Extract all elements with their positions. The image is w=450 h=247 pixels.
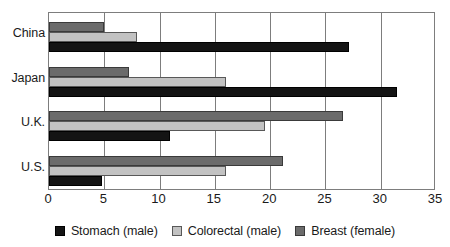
legend-label-colorectal-male: Colorectal (male) — [188, 224, 281, 238]
x-tick-label-5: 5 — [86, 192, 120, 206]
legend-swatch-breast-female — [295, 226, 305, 236]
category-axis-labels: ChinaJapanU.K.U.S. — [0, 12, 45, 190]
bar-u-s-stomach-male — [49, 176, 102, 186]
bar-u-k-stomach-male — [49, 131, 170, 141]
category-label-u-k: U.K. — [0, 116, 45, 129]
bar-japan-stomach-male — [49, 87, 397, 97]
x-tick-label-25: 25 — [307, 192, 341, 206]
bar-u-k-colorectal-male — [49, 121, 265, 131]
x-tick-label-10: 10 — [142, 192, 176, 206]
bar-u-s-breast-female — [49, 156, 283, 166]
category-label-japan: Japan — [0, 72, 45, 85]
bar-china-breast-female — [49, 22, 104, 32]
bar-japan-colorectal-male — [49, 77, 226, 87]
plot-area — [48, 12, 435, 190]
legend-label-breast-female: Breast (female) — [311, 224, 395, 238]
bar-u-k-breast-female — [49, 111, 343, 121]
value-axis: 05101520253035 — [48, 190, 435, 212]
bar-china-stomach-male — [49, 42, 349, 52]
x-tick-label-0: 0 — [31, 192, 65, 206]
legend-label-stomach-male: Stomach (male) — [71, 224, 158, 238]
bar-china-colorectal-male — [49, 32, 137, 42]
category-label-u-s: U.S. — [0, 161, 45, 174]
legend-item-breast-female[interactable]: Breast (female) — [295, 224, 395, 238]
x-tick-label-35: 35 — [418, 192, 450, 206]
legend-swatch-stomach-male — [55, 226, 65, 236]
bars-layer — [49, 13, 434, 189]
legend-item-stomach-male[interactable]: Stomach (male) — [55, 224, 158, 238]
chart-legend: Stomach (male)Colorectal (male)Breast (f… — [0, 219, 450, 243]
x-tick-label-30: 30 — [363, 192, 397, 206]
category-label-china: China — [0, 27, 45, 40]
legend-swatch-colorectal-male — [172, 226, 182, 236]
x-tick-label-20: 20 — [252, 192, 286, 206]
bar-u-s-colorectal-male — [49, 166, 226, 176]
bar-chart: ChinaJapanU.K.U.S. 05101520253035 Stomac… — [0, 0, 450, 247]
legend-item-colorectal-male[interactable]: Colorectal (male) — [172, 224, 281, 238]
x-tick-label-15: 15 — [197, 192, 231, 206]
bar-japan-breast-female — [49, 67, 129, 77]
